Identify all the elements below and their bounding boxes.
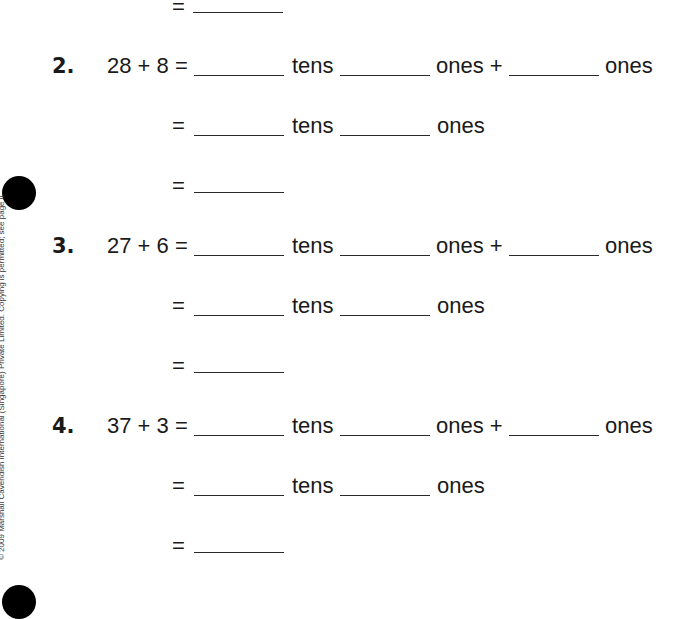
ones-blank[interactable] [340,315,430,316]
ones-plus-label: ones + [436,53,503,79]
equals-sign: = [172,173,185,199]
answer-blank[interactable] [194,192,284,193]
binder-hole-top [2,176,36,210]
problem-expression: 37 + 3 = [107,413,188,439]
tens-blank[interactable] [194,135,284,136]
ones-blank[interactable] [340,75,430,76]
problem-number: 2. [52,53,75,79]
tens-label: tens [292,293,334,319]
tens-blank[interactable] [194,255,284,256]
problem-expression: 27 + 6 = [107,233,188,259]
ones-label: ones [605,233,653,259]
equals-sign: = [172,533,185,559]
tens-blank[interactable] [194,75,284,76]
ones-addend-blank[interactable] [509,255,599,256]
tens-blank[interactable] [194,435,284,436]
equals-sign: = [172,0,185,20]
tens-label: tens [292,413,334,439]
ones-label: ones [605,53,653,79]
tens-label: tens [292,233,334,259]
equals-sign: = [172,353,185,379]
tens-label: tens [292,53,334,79]
tens-blank[interactable] [194,315,284,316]
binder-hole-bottom [2,585,36,619]
equals-sign: = [172,293,185,319]
ones-addend-blank[interactable] [509,75,599,76]
ones-blank[interactable] [340,495,430,496]
ones-label: ones [437,113,485,139]
ones-blank[interactable] [340,435,430,436]
tens-label: tens [292,473,334,499]
equals-sign: = [172,473,185,499]
answer-blank[interactable] [193,12,283,13]
ones-label: ones [605,413,653,439]
ones-plus-label: ones + [436,413,503,439]
tens-blank[interactable] [194,495,284,496]
ones-blank[interactable] [340,135,430,136]
ones-blank[interactable] [340,255,430,256]
tens-label: tens [292,113,334,139]
problem-number: 4. [52,413,75,439]
ones-addend-blank[interactable] [509,435,599,436]
equals-sign: = [172,113,185,139]
problem-expression: 28 + 8 = [107,53,188,79]
answer-blank[interactable] [194,552,284,553]
ones-plus-label: ones + [436,233,503,259]
ones-label: ones [437,473,485,499]
problem-number: 3. [52,233,75,259]
ones-label: ones [437,293,485,319]
copyright-notice: © 2009 Marshall Cavendish International … [0,180,6,560]
answer-blank[interactable] [194,372,284,373]
